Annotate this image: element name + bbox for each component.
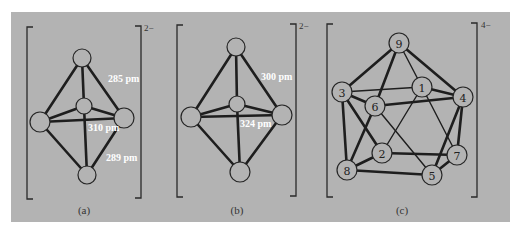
bond-1-2 bbox=[382, 87, 422, 153]
atom-center bbox=[229, 96, 245, 112]
bond-bottom-left bbox=[40, 122, 87, 175]
atom-label: 2 bbox=[379, 148, 386, 161]
distance-label: 324 pm bbox=[240, 118, 272, 129]
bond-2-7 bbox=[382, 153, 457, 155]
atom-bottom bbox=[78, 166, 96, 184]
bracket-left bbox=[327, 24, 333, 197]
atom-label: 3 bbox=[339, 87, 346, 100]
atom-top bbox=[227, 38, 245, 56]
cluster-figure: 2− 285 pm 310 pm 289 pm (a) 2− 300 pm 32… bbox=[0, 0, 527, 233]
atom-left bbox=[30, 112, 50, 132]
bond-3-8 bbox=[342, 92, 347, 170]
bond-bottom-left bbox=[191, 117, 240, 172]
distance-label: 310 pm bbox=[88, 122, 120, 133]
charge-label: 2− bbox=[144, 23, 154, 33]
atom-label: 4 bbox=[460, 92, 467, 105]
structure-c: 4− 123456789 (c) bbox=[327, 20, 491, 217]
bracket-left bbox=[27, 27, 33, 199]
bond-left-right bbox=[191, 115, 282, 117]
atom-label: 8 bbox=[344, 165, 351, 178]
bracket-left bbox=[177, 25, 183, 197]
atom-top bbox=[73, 49, 91, 67]
structure-b: 2− 300 pm 324 pm (b) bbox=[177, 21, 309, 217]
charge-label: 4− bbox=[481, 20, 491, 30]
caption: (a) bbox=[78, 204, 91, 217]
atom-right bbox=[272, 105, 292, 125]
atom-label: 5 bbox=[429, 170, 436, 183]
bond-8-5 bbox=[347, 170, 432, 175]
atom-label: 9 bbox=[396, 38, 403, 51]
atom-label: 7 bbox=[454, 150, 461, 163]
atom-left bbox=[181, 107, 201, 127]
structure-a: 2− 285 pm 310 pm 289 pm (a) bbox=[27, 23, 154, 217]
bonds bbox=[342, 43, 463, 175]
bond-top-left bbox=[40, 58, 82, 122]
distance-label: 285 pm bbox=[108, 73, 140, 84]
bracket-right bbox=[471, 23, 477, 197]
distance-label: 289 pm bbox=[106, 152, 138, 163]
bond-6-4 bbox=[375, 97, 463, 106]
caption: (b) bbox=[231, 204, 244, 217]
atom-bottom bbox=[230, 162, 250, 182]
caption: (c) bbox=[396, 204, 409, 217]
atom-center bbox=[76, 98, 92, 114]
bracket-right bbox=[135, 26, 141, 198]
bond-bottom-center bbox=[84, 106, 87, 175]
charge-label: 2− bbox=[299, 21, 309, 31]
distance-label: 300 pm bbox=[261, 71, 293, 82]
atom-label: 1 bbox=[419, 82, 426, 95]
atom-label: 6 bbox=[372, 101, 379, 114]
